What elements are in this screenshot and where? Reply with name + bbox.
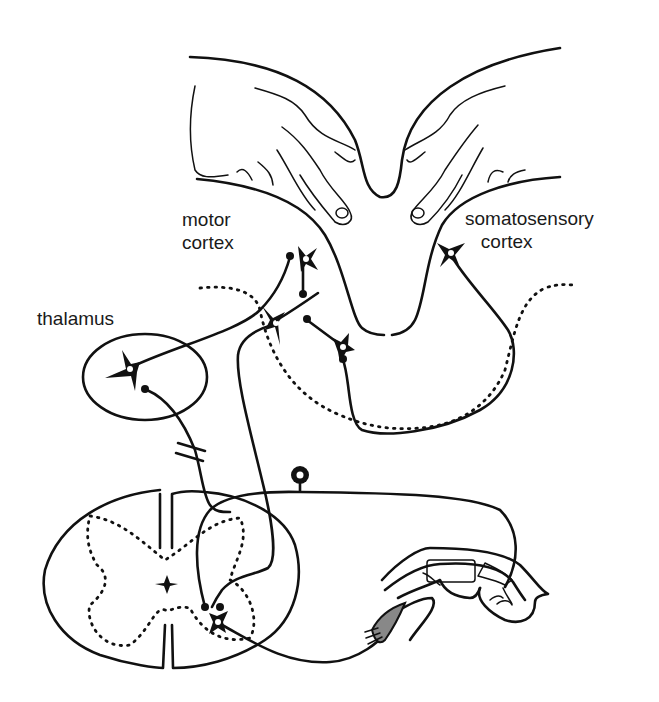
diagram-drawing [0, 0, 659, 702]
central-canal [155, 575, 178, 594]
somatosensory-axon [343, 260, 514, 433]
motor-cortex-neuron-lower [303, 315, 355, 363]
dorsal-root-ganglion [291, 466, 309, 491]
thalamus-label: thalamus [37, 307, 114, 330]
flexor-muscle [372, 603, 405, 642]
motor-cortex-neuron-middle [262, 306, 285, 345]
somatosensory-neuron [437, 243, 465, 267]
motor-axon [222, 625, 390, 662]
neural-pathway-diagram: motor cortex somatosensory cortex thalam… [0, 0, 659, 702]
corticospinal-axon [212, 325, 273, 607]
cortex-boundary-dotted [200, 285, 575, 429]
somatosensory-cortex-label: somatosensory cortex [465, 207, 594, 253]
thalamocortical-axon [136, 257, 290, 365]
motor-cortex-neuron-upper [298, 246, 318, 298]
thalamus-neuron [105, 350, 149, 393]
motor-cortex-label: motor cortex [182, 208, 234, 254]
finger [382, 548, 548, 640]
thalamus-oval [83, 334, 207, 420]
spinal-cord [44, 490, 299, 668]
